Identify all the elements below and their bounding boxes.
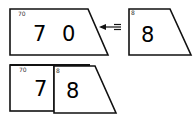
diagram-canvas: 70 7 0 8 8 70 7 8 8	[0, 0, 195, 122]
bottom-left-card: 70 7	[10, 65, 54, 111]
card-shape	[54, 66, 116, 113]
card-digit-1: 7	[33, 22, 46, 46]
card-shape	[10, 65, 54, 111]
card-label: 8	[131, 9, 135, 16]
card-value: 8	[141, 23, 154, 47]
card-label: 70	[19, 66, 27, 73]
card-label: 8	[56, 67, 60, 74]
card-value: 7	[34, 77, 47, 101]
card-value: 8	[66, 79, 79, 103]
card-shape	[129, 9, 191, 55]
card-label: 70	[18, 10, 26, 17]
card-digit-2: 0	[62, 22, 75, 46]
arrow-left-icon	[99, 24, 121, 30]
top-left-card: 70 7 0	[10, 9, 108, 55]
top-right-card: 8 8	[129, 9, 191, 55]
